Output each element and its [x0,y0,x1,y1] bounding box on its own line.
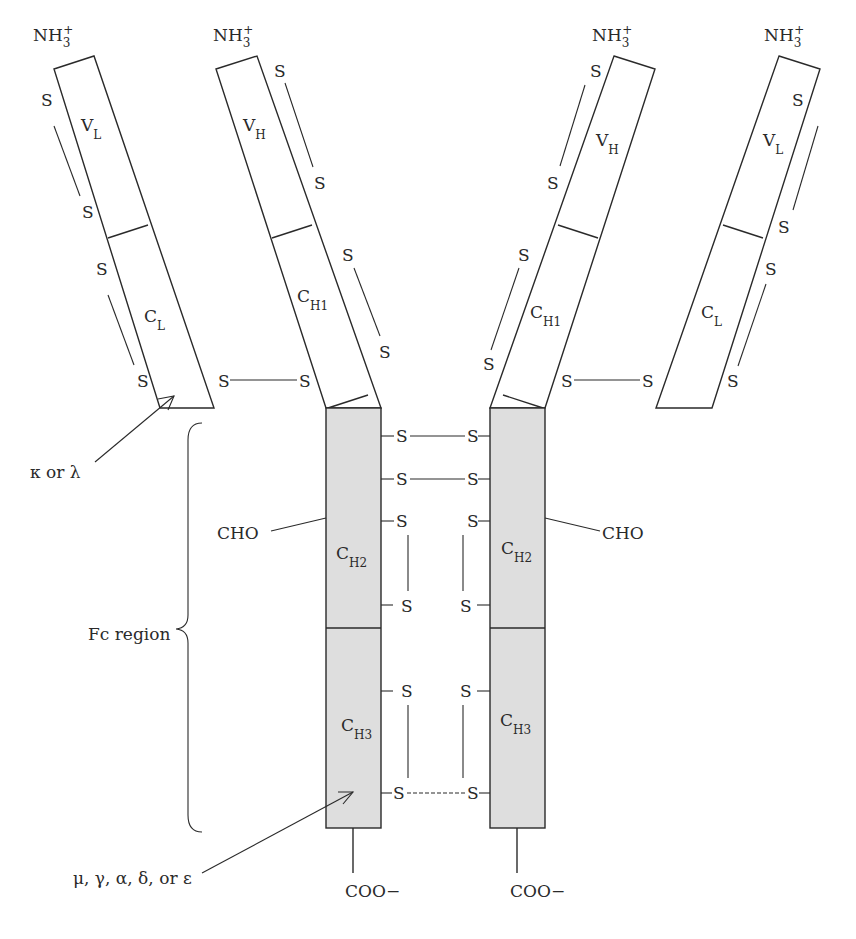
sulfur-label: S [401,681,413,701]
left-c-terminus: COO− [345,881,400,901]
sulfur-label: S [396,511,408,531]
right-light-chain: NH3+ VL CL S S S S [656,23,820,408]
right-fc-chain: CH2 CH3 COO− CHO [490,408,644,901]
sulfur-label: S [401,596,413,616]
right-heavy-chain-fab: NH3+ VH CH1 S S S S S S [483,23,655,408]
heavy-chain-type-label: μ, γ, α, δ, or ε [73,868,192,888]
intrachain-fc-disulfides: S S S S S S S S [381,511,490,803]
sulfur-label: S [642,371,654,391]
sulfur-label: S [379,342,391,362]
right-cho-label: CHO [602,523,644,543]
sulfur-label: S [82,202,94,222]
interchain-disulfides: S S S S [381,426,490,489]
sulfur-label: S [547,173,559,193]
sulfur-label: S [314,173,326,193]
sulfur-label: S [727,371,739,391]
sulfur-label: S [765,259,777,279]
sulfur-label: S [396,469,408,489]
sulfur-label: S [299,371,311,391]
sulfur-label: S [460,596,472,616]
sulfur-label: S [590,61,602,81]
sulfur-label: S [467,783,479,803]
left-heavy-n-terminus: NH3+ [213,23,253,50]
sulfur-label: S [467,469,479,489]
sulfur-label: S [467,426,479,446]
sulfur-label: S [137,371,149,391]
sulfur-label: S [393,783,405,803]
left-light-n-terminus: NH3+ [33,23,73,50]
sulfur-label: S [483,354,495,374]
right-light-n-terminus: NH3+ [764,23,804,50]
sulfur-label: S [218,371,230,391]
sulfur-label: S [518,245,530,265]
right-c-terminus: COO− [510,881,565,901]
sulfur-label: S [396,426,408,446]
sulfur-label: S [778,217,790,237]
sulfur-label: S [460,681,472,701]
fc-region-label: Fc region [88,624,170,644]
sulfur-label: S [561,371,573,391]
heavy-chain-arrow [202,792,353,873]
left-fc-chain: CH2 CH3 COO− CHO [217,408,400,901]
annotations: κ or λ Fc region μ, γ, α, δ, or ε [30,396,353,888]
fc-region-brace [176,423,202,832]
sulfur-label: S [96,259,108,279]
light-chain-arrow [95,396,174,462]
light-chain-type-label: κ or λ [30,462,81,482]
left-cho-label: CHO [217,523,259,543]
right-heavy-n-terminus: NH3+ [592,23,632,50]
sulfur-label: S [342,245,354,265]
sulfur-label: S [467,511,479,531]
antibody-diagram: NH3+ VL CL S S S S NH3+ VH CH1 S S S S S… [0,0,856,939]
left-light-chain: NH3+ VL CL S S S S [33,23,214,408]
left-heavy-chain-fab: NH3+ VH CH1 S S S S S S [213,23,391,408]
sulfur-label: S [41,90,53,110]
sulfur-label: S [274,61,286,81]
sulfur-label: S [792,90,804,110]
